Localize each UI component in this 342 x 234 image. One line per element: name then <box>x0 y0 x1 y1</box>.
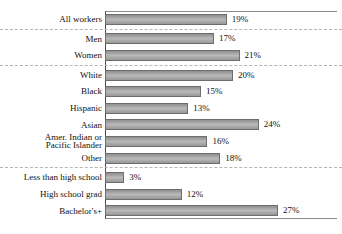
bar <box>105 33 214 44</box>
bar-track: 13% <box>105 100 342 117</box>
row-group-gender: Men 17% Women 21% <box>0 31 342 64</box>
chart-row: Bachelor's+ 27% <box>0 203 342 220</box>
chart-row: Amer. Indian or Pacific Islander 16% <box>0 133 342 150</box>
value-label: 24% <box>264 120 281 129</box>
value-label: 19% <box>232 15 249 24</box>
bar-track: 3% <box>105 169 342 186</box>
value-label: 13% <box>193 104 210 113</box>
chart-row: White 20% <box>0 67 342 84</box>
horizontal-bar-chart: All workers 19% Men 17% Women 2 <box>0 0 342 234</box>
bar-track: 20% <box>105 67 342 84</box>
bar-track: 24% <box>105 117 342 134</box>
bar <box>105 103 188 114</box>
value-label: 20% <box>238 71 255 80</box>
chart-row: Less than high school 3% <box>0 169 342 186</box>
chart-row: Other 18% <box>0 150 342 167</box>
bar <box>105 50 240 61</box>
value-label: 17% <box>219 34 236 43</box>
chart-row: Hispanic 13% <box>0 100 342 117</box>
category-label: Amer. Indian or Pacific Islander <box>0 133 105 150</box>
chart-row: All workers 19% <box>0 11 342 28</box>
category-label: All workers <box>0 15 105 24</box>
bar <box>105 189 182 200</box>
group-separator <box>0 29 342 30</box>
chart-rows: All workers 19% Men 17% Women 2 <box>0 0 342 219</box>
bar <box>105 136 207 147</box>
value-label: 18% <box>225 154 242 163</box>
bar-track: 16% <box>105 133 342 150</box>
row-group-total: All workers 19% <box>0 11 342 28</box>
category-label: Black <box>0 87 105 96</box>
category-label: Women <box>0 51 105 60</box>
category-label: Less than high school <box>0 173 105 182</box>
group-separator <box>0 167 342 168</box>
bar <box>105 119 259 130</box>
bar-track: 21% <box>105 47 342 64</box>
chart-row: Women 21% <box>0 47 342 64</box>
category-label: Asian <box>0 121 105 130</box>
bar-track: 12% <box>105 186 342 203</box>
value-label: 16% <box>212 137 229 146</box>
group-separator <box>0 65 342 66</box>
value-label: 12% <box>187 190 204 199</box>
bar-track: 17% <box>105 31 342 48</box>
value-label: 3% <box>129 173 141 182</box>
category-label: Bachelor's+ <box>0 207 105 216</box>
category-label: Other <box>0 154 105 163</box>
value-label: 21% <box>245 51 262 60</box>
chart-row: Black 15% <box>0 83 342 100</box>
bar <box>105 14 227 25</box>
bar <box>105 70 233 81</box>
category-label: White <box>0 71 105 80</box>
bar-track: 19% <box>105 11 342 28</box>
bar-track: 18% <box>105 150 342 167</box>
bar <box>105 86 201 97</box>
row-group-education: Less than high school 3% High school gra… <box>0 169 342 219</box>
bar-track: 15% <box>105 83 342 100</box>
value-label: 15% <box>206 87 223 96</box>
chart-row: Men 17% <box>0 31 342 48</box>
category-label: Men <box>0 35 105 44</box>
bar <box>105 205 278 216</box>
row-group-race-ethnicity: White 20% Black 15% Hispanic 13% <box>0 67 342 167</box>
bar <box>105 172 124 183</box>
bar <box>105 153 220 164</box>
category-label: Hispanic <box>0 104 105 113</box>
value-label: 27% <box>283 206 300 215</box>
chart-row: Asian 24% <box>0 117 342 134</box>
category-label: High school grad <box>0 190 105 199</box>
bar-track: 27% <box>105 203 342 220</box>
chart-row: High school grad 12% <box>0 186 342 203</box>
